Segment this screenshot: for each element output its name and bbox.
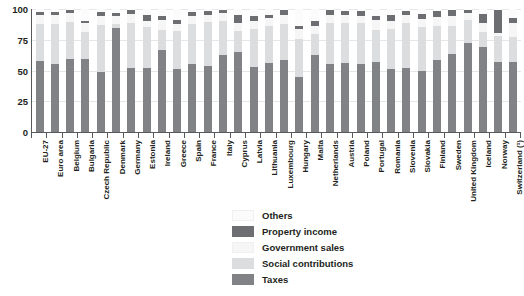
- bar-segment: [311, 21, 319, 27]
- bar-segment: [311, 55, 319, 132]
- bar-segment: [433, 60, 441, 132]
- bar-segment: [250, 9, 258, 16]
- bars-layer: [32, 9, 521, 132]
- x-tick-label: Austria: [348, 140, 356, 168]
- bar-segment: [81, 23, 89, 32]
- bar-segment: [127, 9, 135, 10]
- bar-stack: [127, 9, 135, 132]
- x-tick: [230, 133, 231, 138]
- bar-segment: [158, 50, 166, 132]
- bar-segment: [479, 14, 487, 23]
- bar-segment: [509, 18, 517, 23]
- x-tick: [352, 133, 353, 138]
- bar-segment: [402, 11, 410, 15]
- bar-segment: [112, 16, 120, 24]
- x-tick-label: Bulgaria: [88, 140, 96, 172]
- bar-segment: [311, 34, 319, 54]
- legend-swatch: [232, 258, 254, 269]
- x-tick-label: Czech Republic: [103, 140, 111, 200]
- bar-segment: [81, 59, 89, 132]
- bar-segment: [387, 29, 395, 70]
- bar-segment: [204, 22, 212, 66]
- x-tick-label: Portugal: [378, 140, 386, 172]
- x-tick: [153, 133, 154, 138]
- bar-segment: [326, 9, 334, 10]
- x-tick: [276, 133, 277, 138]
- bar-segment: [418, 19, 426, 27]
- bar-segment: [280, 24, 288, 60]
- x-tick: [520, 133, 521, 138]
- x-tick: [31, 133, 32, 138]
- x-tick: [382, 133, 383, 138]
- bar-segment: [280, 9, 288, 10]
- bar-segment: [509, 23, 517, 37]
- bar-segment: [97, 25, 105, 72]
- bar-stack: [219, 9, 227, 132]
- bar-segment: [143, 9, 151, 15]
- bar-segment: [433, 17, 441, 26]
- bar-segment: [402, 15, 410, 24]
- bar-segment: [158, 16, 166, 20]
- bar-segment: [66, 9, 74, 10]
- bar-segment: [357, 11, 365, 16]
- bar-segment: [158, 9, 166, 16]
- bar-segment: [127, 14, 135, 23]
- x-tick-label: Slovakia: [424, 140, 432, 172]
- bar-stack: [81, 9, 89, 132]
- bar-stack: [448, 9, 456, 132]
- bar-segment: [295, 29, 303, 39]
- x-tick-label: Romania: [394, 140, 402, 174]
- x-tick: [123, 133, 124, 138]
- bar-segment: [81, 21, 89, 23]
- x-tick-label: Norway: [501, 140, 509, 169]
- x-tick: [107, 133, 108, 138]
- bar-segment: [479, 32, 487, 47]
- bar-segment: [418, 27, 426, 71]
- x-tick: [214, 133, 215, 138]
- legend-item: Taxes: [232, 272, 492, 288]
- bar-segment: [387, 21, 395, 29]
- bar-segment: [387, 15, 395, 21]
- bar-segment: [51, 64, 59, 132]
- x-tick-label: United Kingdom: [470, 140, 478, 202]
- x-tick-label: Spain: [195, 140, 203, 162]
- bar-segment: [36, 15, 44, 24]
- bar-segment: [402, 23, 410, 68]
- x-axis: EU-27Euro areaBelgiumBulgariaCzech Repub…: [31, 133, 520, 219]
- bar-segment: [66, 13, 74, 22]
- bar-segment: [326, 64, 334, 132]
- bar-stack: [188, 9, 196, 132]
- bar-segment: [127, 68, 135, 132]
- bar-segment: [479, 23, 487, 32]
- bar-segment: [341, 9, 349, 11]
- bar-segment: [112, 28, 120, 132]
- x-tick-label: Cyprus: [241, 140, 249, 168]
- bar-segment: [464, 20, 472, 43]
- bar-segment: [265, 9, 273, 15]
- bar-segment: [326, 15, 334, 24]
- bar-segment: [234, 31, 242, 52]
- bar-segment: [127, 23, 135, 68]
- bar-segment: [372, 62, 380, 132]
- bar-segment: [97, 72, 105, 132]
- x-tick: [337, 133, 338, 138]
- x-tick-label: Belgium: [73, 140, 81, 172]
- y-tick-label: 100: [2, 5, 28, 15]
- bar-segment: [234, 23, 242, 32]
- bar-stack: [36, 9, 44, 132]
- bar-segment: [418, 14, 426, 19]
- bar-segment: [36, 12, 44, 15]
- legend-swatch: [232, 226, 254, 237]
- bar-segment: [357, 64, 365, 132]
- bar-segment: [311, 9, 319, 21]
- legend-label: Property income: [262, 226, 337, 237]
- bar-stack: [311, 9, 319, 132]
- bar-segment: [357, 9, 365, 11]
- bar-segment: [219, 10, 227, 14]
- bar-segment: [188, 9, 196, 12]
- x-tick-label: Estonia: [149, 140, 157, 169]
- legend-swatch: [232, 274, 254, 285]
- bar-stack: [280, 9, 288, 132]
- bar-stack: [387, 9, 395, 132]
